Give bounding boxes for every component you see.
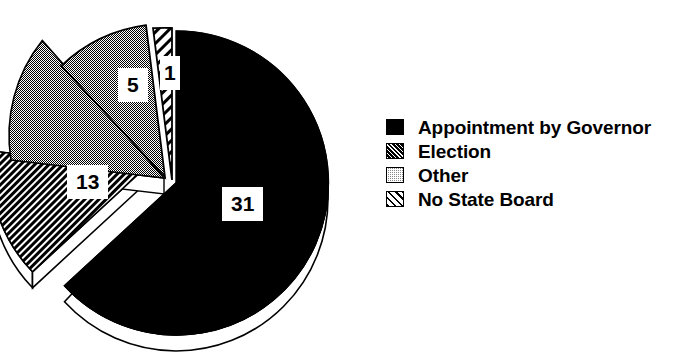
legend-item-other[interactable]: Other [386,163,676,187]
legend-swatch-sparse-hatch-icon [386,191,404,207]
slice-value-label-appointment: 31 [222,187,263,221]
chart-legend: Appointment by Governor Election Other N… [386,115,676,211]
legend-label-appointment-by-governor: Appointment by Governor [418,118,651,137]
legend-label-no-state-board: No State Board [418,190,554,209]
legend-swatch-solid-black-icon [386,119,404,135]
legend-item-election[interactable]: Election [386,139,676,163]
legend-swatch-dense-hatch-icon [386,143,404,159]
legend-item-no-state-board[interactable]: No State Board [386,187,676,211]
slice-value-label-election: 13 [67,165,108,199]
legend-item-appointment-by-governor[interactable]: Appointment by Governor [386,115,676,139]
legend-label-election: Election [418,142,491,161]
slice-value-label-no-state-board: 1 [160,56,180,90]
legend-swatch-gray-dither-icon [386,167,404,183]
pie-chart: 31 13 5 1 [0,0,360,360]
pie-chart-svg [0,0,360,360]
legend-label-other: Other [418,166,468,185]
slice-value-label-other: 5 [118,68,148,102]
chart-canvas: 31 13 5 1 Appointment by Governor Electi… [0,0,684,360]
